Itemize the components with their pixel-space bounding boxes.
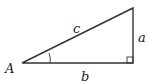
right-triangle-diagram: A c a b: [0, 0, 148, 84]
right-angle-marker: [127, 57, 133, 63]
label-side-a: a: [138, 30, 146, 45]
label-vertex-A: A: [4, 61, 14, 76]
label-hypotenuse-c: c: [73, 21, 81, 36]
label-side-b: b: [81, 69, 89, 84]
angle-arc-A: [49, 53, 50, 63]
